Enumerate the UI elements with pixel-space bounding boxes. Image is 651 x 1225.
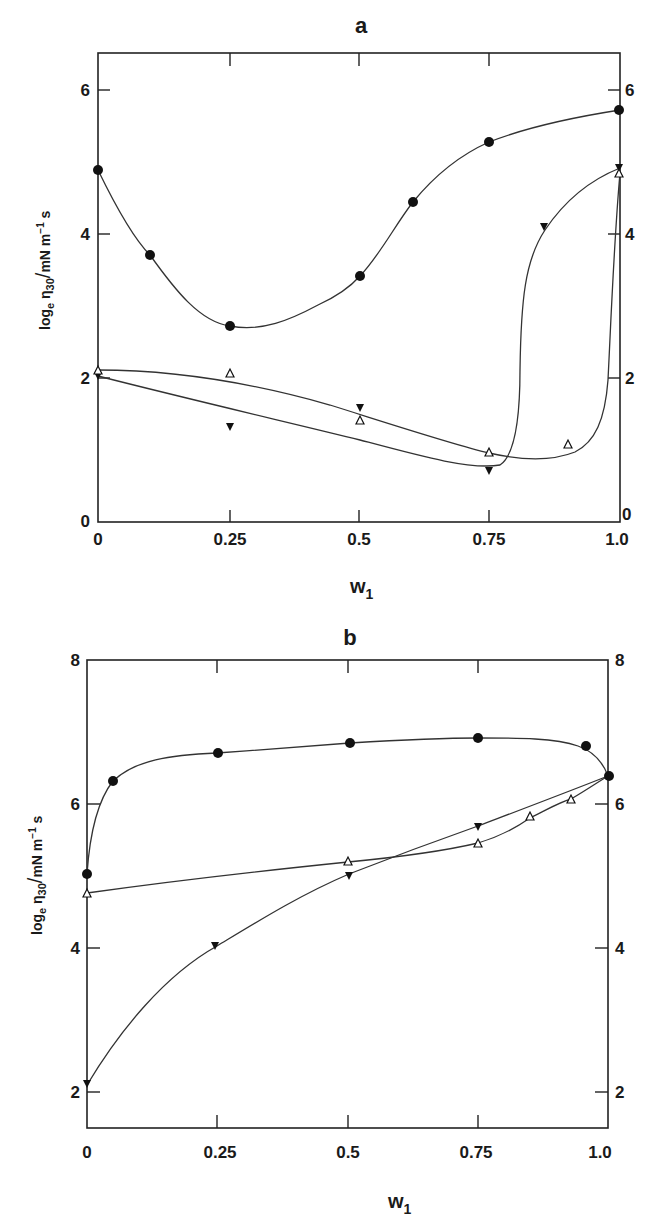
panel-b-xlabel: w1: [387, 1190, 412, 1217]
b-curve-down-triangles: [87, 776, 608, 1085]
b-markers-open-triangles: [83, 795, 575, 897]
b-ytick-6: 6: [71, 795, 80, 814]
panel-b-y-ticks-right: 8 6 4 2: [595, 651, 625, 1102]
a-curve-open-triangles: [98, 173, 620, 459]
panel-b-title: b: [343, 625, 356, 650]
b-xtick-05: 0.5: [336, 1143, 360, 1162]
b-ytick-right-8: 8: [615, 651, 624, 670]
figure: a 6 4 2 0 6 4 2 0: [0, 0, 651, 1225]
a-xtick-1: 1.0: [605, 530, 629, 549]
a-ytick-2: 2: [81, 369, 90, 388]
a-ytick-right-0: 0: [622, 505, 631, 524]
b-ytick-right-2: 2: [615, 1083, 624, 1102]
panel-a-x-ticks: 0 0.25 0.5 0.75 1.0: [93, 53, 629, 549]
a-ytick-6: 6: [81, 81, 90, 100]
a-ytick-0: 0: [81, 512, 90, 531]
a-xtick-05: 0.5: [347, 530, 371, 549]
b-ytick-8: 8: [71, 651, 80, 670]
panel-a: a 6 4 2 0 6 4 2 0: [32, 13, 635, 602]
panel-a-y-ticks-left: 6 4 2 0: [81, 81, 110, 531]
a-xtick-075: 0.75: [472, 530, 505, 549]
a-ytick-4: 4: [81, 225, 91, 244]
b-ytick-4: 4: [71, 939, 81, 958]
panel-b: b 8 6 4 2 8 6 4 2: [24, 625, 625, 1217]
a-ytick-right-4: 4: [625, 225, 635, 244]
a-xtick-025: 0.25: [213, 530, 246, 549]
panel-b-frame: [87, 660, 608, 1128]
a-markers-down-triangles: [94, 164, 623, 475]
b-xtick-075: 0.75: [459, 1143, 492, 1162]
b-ytick-2: 2: [71, 1083, 80, 1102]
panel-a-ylabel: loge η30/mN m−1 s: [32, 210, 56, 330]
a-markers-circles: [93, 105, 624, 331]
b-xtick-025: 0.25: [203, 1143, 236, 1162]
b-markers-down-triangles: [83, 823, 482, 1088]
a-ytick-right-6: 6: [625, 81, 634, 100]
b-xtick-1: 1.0: [588, 1143, 612, 1162]
a-ytick-right-2: 2: [625, 369, 634, 388]
panel-b-x-ticks: 0 0.25 0.5 0.75 1.0: [82, 660, 612, 1162]
a-curve-circles: [98, 110, 620, 328]
panel-b-ylabel: loge η30/mN m−1 s: [24, 815, 48, 935]
a-markers-open-triangles: [94, 169, 623, 456]
b-ytick-right-6: 6: [615, 795, 624, 814]
a-xtick-0: 0: [93, 530, 102, 549]
b-xtick-0: 0: [82, 1143, 91, 1162]
panel-a-xlabel: w1: [349, 575, 374, 602]
panel-a-title: a: [355, 13, 368, 38]
panel-a-frame: [98, 53, 620, 522]
b-ytick-right-4: 4: [615, 939, 625, 958]
